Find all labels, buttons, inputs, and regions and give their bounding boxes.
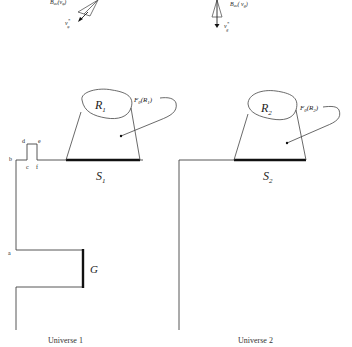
- top-right-bac-label: Bac( vg): [230, 1, 248, 8]
- gate-label: G: [90, 263, 98, 275]
- top-left-vector-label: v*φ: [65, 18, 71, 29]
- point-e-label: e: [38, 138, 41, 144]
- universe2-caption: Universe 2: [238, 336, 273, 345]
- point-f-label: f: [36, 164, 38, 170]
- universe2-boundary: [179, 160, 306, 330]
- surface-s1-label: S1: [96, 169, 106, 185]
- arrow-head-icon: [215, 24, 220, 28]
- point-c-label: c: [26, 164, 29, 170]
- surface-s2-label: S2: [263, 169, 273, 185]
- top-left-bac-label: Bac(vφ): [50, 0, 66, 6]
- region-r1-projection: [66, 89, 176, 160]
- f-theta-r1-label: Fθ(R1): [133, 96, 153, 105]
- universe1-boundary: [16, 144, 143, 330]
- region-r2-label: R2: [260, 101, 272, 117]
- point-b-label: b: [9, 156, 12, 162]
- r2-point: [286, 142, 288, 144]
- region-r1-label: R1: [94, 98, 106, 114]
- top-left-cone: [78, 0, 98, 22]
- top-right-cone: [212, 0, 222, 28]
- point-a-label: a: [8, 250, 11, 256]
- diagram-canvas: Bac(vφ) v*φ Bac( vg) v*g G a b c d e f S…: [0, 0, 352, 347]
- r1-point: [120, 135, 122, 137]
- f-theta-r2-label: Fθ(R2): [299, 104, 319, 113]
- region-r2-projection: [234, 91, 340, 160]
- universe1-caption: Universe 1: [48, 336, 83, 345]
- top-right-vector-label: v*g: [224, 21, 230, 32]
- point-d-label: d: [22, 138, 25, 144]
